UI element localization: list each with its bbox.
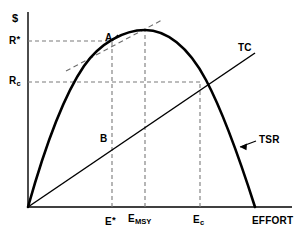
point-label-b: B: [100, 134, 107, 144]
y-tick-r-star: R*: [9, 34, 20, 46]
tangent-line-at-a: [66, 20, 162, 71]
y-tick-r-star-sup: *: [16, 33, 20, 44]
x-tick-e-msy-sub: MSY: [135, 217, 151, 226]
x-tick-e-star-base: E: [105, 216, 112, 227]
point-label-a: A: [105, 33, 112, 43]
y-tick-r-c-sub: c: [16, 79, 20, 88]
x-tick-e-star-sup: *: [112, 214, 116, 225]
bioeconomic-effort-revenue-chart: $ R* Rc A B TC TSR E* EMSY Ec EFFORT: [0, 0, 300, 237]
x-tick-e-c-sub: c: [200, 218, 204, 227]
y-tick-r-c: Rc: [9, 76, 21, 87]
total-sustainable-revenue-curve: [28, 30, 255, 207]
x-tick-e-c-base: E: [193, 214, 200, 225]
x-tick-e-star: E*: [105, 215, 116, 227]
x-axis-title: EFFORT: [252, 216, 293, 226]
series-label-tsr: TSR: [259, 135, 280, 145]
x-tick-e-msy-base: E: [128, 213, 135, 224]
series-label-tc: TC: [238, 43, 252, 53]
total-cost-line: [28, 53, 255, 207]
tsr-leader-arrowhead: [240, 143, 247, 150]
x-tick-e-msy: EMSY: [128, 214, 151, 225]
chart-canvas: [0, 0, 300, 237]
y-axis-title: $: [12, 13, 18, 24]
x-tick-e-c: Ec: [193, 215, 204, 226]
